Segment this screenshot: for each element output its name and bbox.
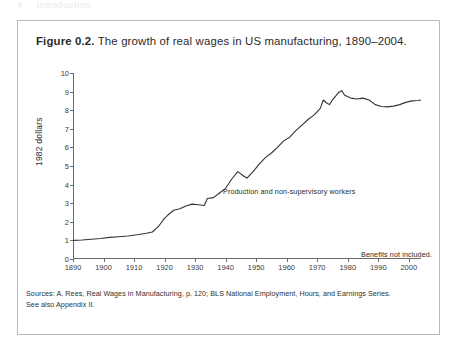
y-tick-label-9: 9	[65, 87, 69, 96]
x-tick-mark-1910	[134, 259, 135, 262]
figure-container: Figure 0.2. The growth of real wages in …	[17, 20, 440, 335]
page-running-header: 4Introduction	[17, 0, 317, 14]
y-tick-mark-2	[70, 222, 73, 223]
x-tick-mark-1920	[165, 259, 166, 262]
x-tick-mark-1990	[378, 259, 379, 262]
x-tick-mark-1940	[226, 259, 227, 262]
x-tick-mark-1950	[256, 259, 257, 262]
chart-plot-area: 012345678910 189019001910192019301940195…	[73, 73, 421, 259]
y-tick-mark-8	[70, 110, 73, 111]
y-tick-mark-9	[70, 92, 73, 93]
y-tick-label-4: 4	[65, 180, 69, 189]
y-tick-mark-6	[70, 147, 73, 148]
x-tick-label-2000: 2000	[400, 263, 417, 272]
x-tick-label-1980: 1980	[339, 263, 356, 272]
x-tick-label-1890: 1890	[65, 263, 82, 272]
y-tick-label-10: 10	[61, 69, 69, 78]
x-tick-label-1970: 1970	[309, 263, 326, 272]
y-tick-label-3: 3	[65, 199, 69, 208]
y-tick-mark-7	[70, 129, 73, 130]
annotation-benefits-note: Benefits not included.	[361, 250, 432, 259]
x-tick-mark-1900	[104, 259, 105, 262]
y-tick-mark-1	[70, 240, 73, 241]
page-header-title: Introduction	[37, 0, 91, 10]
x-tick-label-1920: 1920	[156, 263, 173, 272]
x-tick-label-1950: 1950	[248, 263, 265, 272]
y-tick-label-1: 1	[65, 236, 69, 245]
y-tick-label-5: 5	[65, 162, 69, 171]
y-tick-mark-10	[70, 73, 73, 74]
figure-sources-line-1: Sources: A. Rees, Real Wages in Manufact…	[26, 289, 431, 300]
x-tick-label-1900: 1900	[95, 263, 112, 272]
y-tick-mark-5	[70, 166, 73, 167]
x-tick-label-1960: 1960	[278, 263, 295, 272]
x-tick-mark-2000	[409, 259, 410, 262]
page-number: 4	[17, 0, 23, 10]
figure-caption-text: The growth of real wages in US manufactu…	[98, 35, 407, 47]
x-tick-label-1930: 1930	[187, 263, 204, 272]
y-tick-label-8: 8	[65, 106, 69, 115]
x-tick-label-1940: 1940	[217, 263, 234, 272]
y-tick-mark-4	[70, 185, 73, 186]
x-tick-label-1910: 1910	[126, 263, 143, 272]
y-tick-label-7: 7	[65, 124, 69, 133]
figure-label: Figure 0.2.	[36, 35, 95, 47]
y-tick-label-6: 6	[65, 143, 69, 152]
x-tick-mark-1980	[348, 259, 349, 262]
figure-sources-line-2: See also Appendix II.	[26, 300, 431, 311]
y-tick-label-2: 2	[65, 217, 69, 226]
x-tick-mark-1890	[73, 259, 74, 262]
figure-caption: Figure 0.2. The growth of real wages in …	[36, 35, 429, 47]
y-tick-mark-3	[70, 203, 73, 204]
y-axis-title: 1982 dollars	[34, 117, 44, 166]
x-tick-mark-1930	[195, 259, 196, 262]
annotation-series-label: Production and non-supervisory workers	[223, 187, 355, 196]
x-tick-mark-1960	[287, 259, 288, 262]
chart-line-series	[73, 73, 421, 259]
x-tick-mark-1970	[317, 259, 318, 262]
x-tick-label-1990: 1990	[370, 263, 387, 272]
figure-sources: Sources: A. Rees, Real Wages in Manufact…	[26, 289, 431, 310]
